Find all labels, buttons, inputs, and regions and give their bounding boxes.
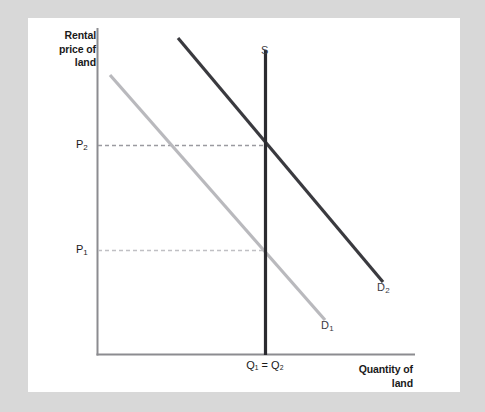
demand-2-curve-label: D2 bbox=[377, 281, 389, 293]
price-2-subscript: 2 bbox=[83, 143, 87, 152]
quantity-tick-label: Q₁ = Q₂ bbox=[228, 359, 302, 371]
figure-canvas: Rental price of land Quantity of land S … bbox=[0, 0, 485, 412]
demand-1-letter: D bbox=[321, 319, 329, 331]
supply-curve-label: S bbox=[261, 44, 268, 56]
demand-2-letter: D bbox=[377, 281, 385, 293]
demand-1-curve-label: D1 bbox=[321, 319, 333, 331]
price-1-subscript: 1 bbox=[83, 248, 87, 257]
demand-curve-d2 bbox=[178, 38, 383, 282]
x-axis-title: Quantity of land bbox=[335, 363, 413, 390]
y-axis-title: Rental price of land bbox=[36, 29, 96, 70]
demand-curve-d1 bbox=[110, 75, 325, 320]
price-2-tick-label: P2 bbox=[76, 138, 88, 150]
demand-2-subscript: 2 bbox=[385, 286, 389, 295]
demand-1-subscript: 1 bbox=[329, 324, 333, 333]
price-1-tick-label: P1 bbox=[76, 243, 88, 255]
